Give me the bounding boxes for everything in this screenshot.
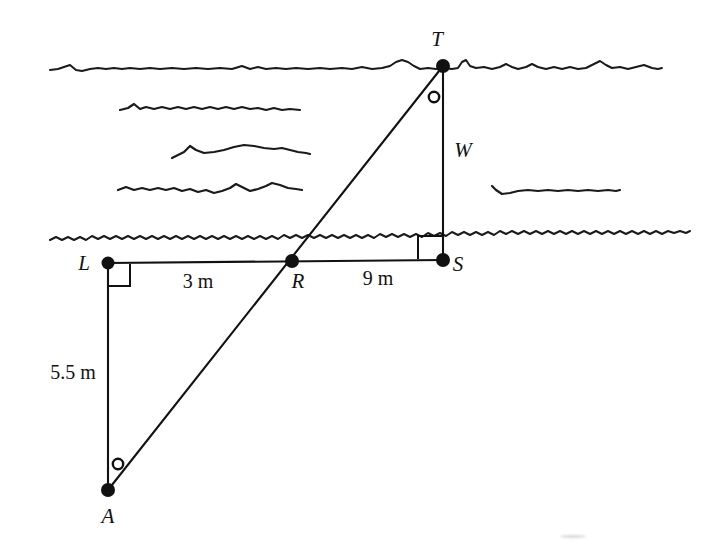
point-label-R: R [291, 269, 305, 293]
vertex-dot-T [436, 59, 450, 73]
angle-marker-A [113, 459, 123, 469]
point-label-L: L [77, 251, 90, 275]
scan-artifact [560, 535, 586, 538]
point-label-A: A [100, 504, 115, 528]
vertex-dot-R [285, 254, 299, 268]
ripple-line-2 [172, 145, 310, 158]
vertex-dot-L [102, 257, 115, 270]
measure-label-LA: 5.5 m [50, 361, 96, 383]
measure-label-TS: W [454, 138, 474, 162]
geometry-figure: T L R S A 3 m 9 m 5.5 m W [0, 0, 702, 546]
vertex-dot-A [101, 483, 115, 497]
water-surface-group [50, 60, 690, 240]
point-label-S: S [453, 252, 464, 276]
vertex-dot-S [436, 253, 450, 267]
measure-label-LR: 3 m [183, 270, 214, 292]
near-bank-waterline [50, 231, 690, 240]
angle-marker-T [429, 92, 439, 102]
ripple-line-1 [120, 104, 300, 110]
point-label-T: T [431, 27, 444, 51]
point-labels-group: T L R S A [77, 27, 464, 528]
far-bank-waterline [50, 60, 662, 71]
ripple-line-4 [492, 186, 620, 194]
segment-LS [108, 260, 443, 263]
measure-label-RS: 9 m [363, 267, 394, 289]
ripple-line-3 [118, 183, 302, 193]
diagram-canvas: T L R S A 3 m 9 m 5.5 m W [0, 0, 702, 546]
